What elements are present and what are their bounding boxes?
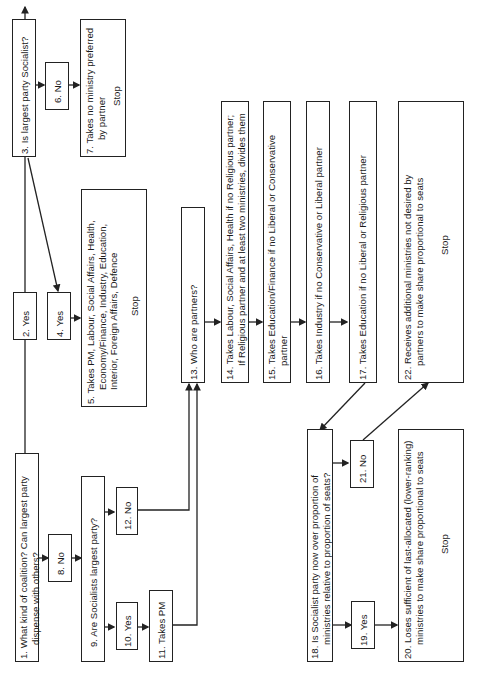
node-6-no: 6. No xyxy=(45,62,69,110)
node-18-over-proportion: 18. Is Socialist party now over proporti… xyxy=(307,429,333,662)
node-4-yes: 4. Yes xyxy=(47,292,71,340)
node-2-yes: 2. Yes xyxy=(13,292,37,340)
node-9-socialists-largest: 9. Are Socialists largest party? xyxy=(81,476,105,662)
edge-3-4 xyxy=(28,158,58,291)
edge-11-13 xyxy=(172,384,197,625)
node-1-text: 1. What kind of coalition? Can largest p… xyxy=(18,476,41,659)
node-7-no-ministry: 7. Takes no ministry preferred by partne… xyxy=(80,19,126,157)
node-15-text: 15. Takes Education/Finance if no Libera… xyxy=(266,135,289,380)
node-1-coalition-question: 1. What kind of coalition? Can largest p… xyxy=(15,453,39,662)
node-10-yes: 10. Yes xyxy=(116,602,138,650)
node-3-largest-socialist: 3. Is largest party Socialist? xyxy=(12,19,36,157)
node-14-labour-social-health: 14. Takes Labour, Social Affairs, Health… xyxy=(221,101,249,383)
node-12-no: 12. No xyxy=(116,487,138,535)
node-21-no: 21. No xyxy=(350,440,374,488)
node-14-text: 14. Takes Labour, Social Affairs, Health… xyxy=(224,113,247,380)
node-7-text: 7. Takes no ministry preferred by partne… xyxy=(84,28,123,154)
node-11-takes-pm: 11. Takes PM xyxy=(149,590,173,662)
node-5-takes-ministries: 5. Takes PM, Labour, Social Affairs, Hea… xyxy=(81,189,147,407)
node-17-education: 17. Takes Education if no Liberal or Rel… xyxy=(349,101,377,383)
node-16-industry: 16. Takes Industry if no Conservative or… xyxy=(306,101,330,383)
flowchart-canvas: 1. What kind of coalition? Can largest p… xyxy=(0,0,479,683)
node-22-text: 22. Receives additional ministries not d… xyxy=(402,175,451,380)
node-13-who-are-partners: 13. Who are partners? xyxy=(181,207,205,383)
node-20-loses-ministries: 20. Loses sufficient of last-allocated (… xyxy=(398,429,464,662)
node-5-text: 5. Takes PM, Labour, Social Affairs, Hea… xyxy=(85,220,140,404)
node-19-yes: 19. Yes xyxy=(351,601,375,649)
edge-17-18 xyxy=(320,383,365,430)
node-15-education-finance: 15. Takes Education/Finance if no Libera… xyxy=(263,101,291,383)
node-8-no: 8. No xyxy=(48,534,72,582)
node-18-text: 18. Is Socialist party now over proporti… xyxy=(309,473,332,659)
node-20-text: 20. Loses sufficient of last-allocated (… xyxy=(402,441,451,659)
node-22-receives-ministries: 22. Receives additional ministries not d… xyxy=(398,101,464,383)
